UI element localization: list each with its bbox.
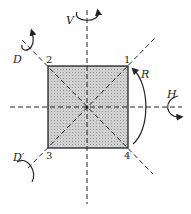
label-d: D xyxy=(12,53,22,66)
vertex-4: 4 xyxy=(124,150,130,161)
vertex-1: 1 xyxy=(124,54,130,65)
label-d-prime: D′ xyxy=(12,151,25,164)
label-r: R xyxy=(140,68,149,81)
vertex-3: 3 xyxy=(46,150,52,161)
vertex-2: 2 xyxy=(46,54,52,65)
label-h: H xyxy=(166,88,177,101)
square-symmetry-diagram: V D R H D′ 2 1 3 4 xyxy=(0,0,191,214)
center-point xyxy=(86,106,89,109)
label-v: V xyxy=(66,14,75,27)
